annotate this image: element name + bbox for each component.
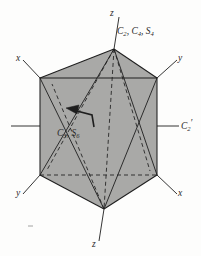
axis-ray-z-bottom xyxy=(99,209,104,241)
sym-s4-letter: S xyxy=(146,26,151,36)
axis-ray-y-upper-right xyxy=(157,60,177,78)
axis-label-y-upper-right: y xyxy=(178,54,182,64)
axis-label-z-bottom: z xyxy=(92,240,96,250)
axis-label-z-top: z xyxy=(110,9,114,19)
axis-label-x-lower-right: x xyxy=(178,189,182,199)
sym-s6-sub: 6 xyxy=(76,132,79,139)
symmetry-label-c2-c4-s4: C2, C4, S4 xyxy=(117,27,154,37)
axis-ray-x-upper-left xyxy=(23,60,40,78)
axis-label-y-lower-left: y xyxy=(16,189,20,199)
hexagonal-prism-drawing xyxy=(0,0,201,256)
axis-ray-x-lower-right xyxy=(157,175,177,194)
sym-c2-sub: 2 xyxy=(123,30,126,37)
axis-label-x-upper-left: x xyxy=(16,54,20,64)
sym-c4-sub: 4 xyxy=(138,30,141,37)
prism-top-wedge-face xyxy=(40,49,157,78)
sym-c2p-prime: ′ xyxy=(190,118,192,128)
sym-c4-letter: C xyxy=(131,26,137,36)
symmetry-label-c2-prime: C2′ xyxy=(181,122,193,132)
prism-bottom-wedge-face xyxy=(40,175,157,209)
sym-s4-sub: 4 xyxy=(151,30,154,37)
axis-ray-y-lower-left xyxy=(23,175,40,194)
prism-front-face xyxy=(40,78,157,175)
figure-container: x y y x z z C2, C4, S4 C3, S6 C2′ xyxy=(0,0,201,256)
symmetry-label-c3-s6: C3, S6 xyxy=(57,129,79,139)
sym-c3-sub: 3 xyxy=(63,132,66,139)
